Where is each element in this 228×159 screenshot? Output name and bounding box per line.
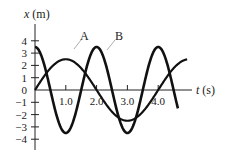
x-tick-label: 1.0 — [59, 95, 73, 107]
y-tick-label: 4 — [22, 35, 28, 47]
y-tick-label: 1 — [22, 72, 28, 84]
label-b: B — [115, 29, 123, 43]
x-tick-label: 3.0 — [121, 95, 135, 107]
label-a: A — [80, 29, 89, 43]
y-tick-label: −3 — [15, 121, 27, 133]
label-b-leader — [107, 40, 115, 50]
y-tick-label: 2 — [22, 59, 28, 71]
y-tick-label: 3 — [22, 47, 28, 59]
y-axis-label: x (m) — [23, 7, 50, 21]
x-axis-label: t (s) — [196, 83, 215, 97]
y-tick-label: −2 — [15, 109, 27, 121]
y-tick-label: −1 — [15, 96, 27, 108]
chart: x (m) t (s) 43210−1−2−3−4 1.02.03.04.0 A… — [0, 0, 228, 159]
y-tick-label: −4 — [15, 133, 27, 145]
y-tick-label: 0 — [22, 84, 28, 96]
